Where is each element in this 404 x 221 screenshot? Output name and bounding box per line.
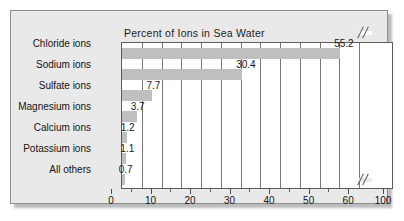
x-tick-label: 10: [145, 195, 156, 206]
x-tick: [348, 189, 349, 194]
chart-title: Percent of Ions in Sea Water: [124, 27, 265, 39]
plot-area: [121, 42, 393, 189]
bar-value-label: 7.7: [146, 80, 160, 91]
category-label: Sodium ions: [36, 59, 91, 70]
x-tick: [230, 189, 231, 194]
figure: Percent of Ions in Sea Water 55.2Chlorid…: [0, 0, 404, 221]
x-tick-minor: [249, 189, 250, 192]
x-tick-label: 40: [264, 195, 275, 206]
x-tick-label: 30: [224, 195, 235, 206]
bar: [122, 132, 127, 143]
category-label: Potassium ions: [23, 143, 91, 154]
gridline-minor: [300, 43, 301, 188]
bar: [122, 48, 340, 59]
category-label: Magnesium ions: [18, 101, 91, 112]
bar-value-label: 55.2: [334, 38, 353, 49]
gridline-minor: [221, 43, 222, 188]
x-tick-minor: [131, 189, 132, 192]
bar-value-label: 0.7: [119, 164, 133, 175]
axis-break-mask: [359, 31, 372, 35]
gridline: [280, 43, 281, 188]
bar: [122, 153, 126, 164]
gridline: [162, 43, 163, 188]
gridline-minor: [339, 43, 340, 188]
x-tick: [111, 189, 112, 194]
x-tick: [151, 189, 152, 194]
bar-value-label: 1.1: [120, 143, 134, 154]
category-label: All others: [49, 164, 91, 175]
figure-card: Percent of Ions in Sea Water 55.2Chlorid…: [10, 10, 388, 204]
x-tick-label: 0: [108, 195, 114, 206]
x-tick-label: 20: [184, 195, 195, 206]
gridline: [201, 43, 202, 188]
x-tick-label: 100: [375, 195, 392, 206]
gridline: [320, 43, 321, 188]
bar-value-label: 1.2: [121, 122, 135, 133]
x-tick: [383, 189, 384, 194]
bar: [122, 174, 125, 185]
x-tick-minor: [328, 189, 329, 192]
x-tick: [309, 189, 310, 194]
x-tick-label: 60: [343, 195, 354, 206]
axis-break-top: [357, 26, 375, 40]
axis-break-slash: [357, 26, 364, 38]
axis-break-slash: [362, 26, 369, 38]
gridline-minor: [260, 43, 261, 188]
category-label: Chloride ions: [33, 38, 91, 49]
bar-value-label: 30.4: [236, 59, 255, 70]
x-tick: [190, 189, 191, 194]
x-tick-minor: [170, 189, 171, 192]
bar: [122, 111, 137, 122]
gridline-minor: [142, 43, 143, 188]
category-label: Calcium ions: [34, 122, 91, 133]
category-label: Sulfate ions: [39, 80, 91, 91]
x-tick-minor: [289, 189, 290, 192]
x-tick-label: 50: [303, 195, 314, 206]
bar: [122, 69, 242, 80]
x-tick: [269, 189, 270, 194]
x-tick-minor: [210, 189, 211, 192]
bar-value-label: 3.7: [131, 101, 145, 112]
bar: [122, 90, 152, 101]
gridline-minor: [181, 43, 182, 188]
gridline: [359, 43, 360, 188]
